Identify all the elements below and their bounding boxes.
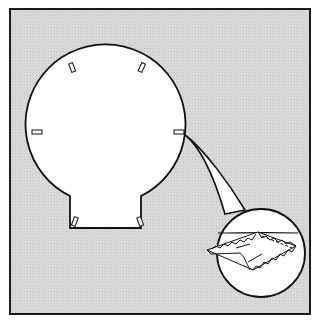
notch-right <box>174 130 184 134</box>
diagram-canvas <box>0 0 320 321</box>
notch-left <box>32 130 42 134</box>
